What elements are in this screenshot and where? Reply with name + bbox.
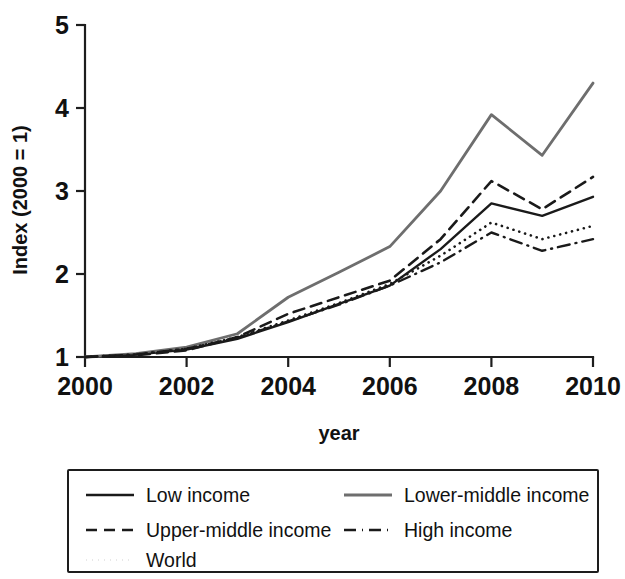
chart-figure: 12345 200020022004200620082010 Index (20… (0, 0, 625, 579)
x-tick-label-2000: 2000 (57, 372, 113, 400)
line-chart: 12345 200020022004200620082010 Index (20… (0, 0, 625, 579)
legend-label: World (146, 549, 197, 571)
legend-label: Lower-middle income (404, 484, 589, 506)
x-tick-label-2008: 2008 (464, 372, 520, 400)
y-tick-label-1: 1 (55, 343, 69, 371)
legend-label: High income (404, 519, 512, 541)
y-tick-label-2: 2 (55, 260, 69, 288)
legend-label: Upper-middle income (146, 519, 331, 541)
x-axis-title: year (318, 422, 359, 444)
y-tick-label-5: 5 (55, 11, 69, 39)
y-tick-label-4: 4 (55, 94, 69, 122)
legend-label: Low income (146, 484, 250, 506)
y-tick-label-3: 3 (55, 177, 69, 205)
y-axis-title: Index (2000 = 1) (9, 125, 31, 275)
chart-legend: Low incomeLower-middle incomeUpper-middl… (68, 470, 598, 572)
x-tick-label-2010: 2010 (565, 372, 621, 400)
x-tick-label-2004: 2004 (260, 372, 316, 400)
x-tick-label-2002: 2002 (159, 372, 215, 400)
x-tick-label-2006: 2006 (362, 372, 418, 400)
